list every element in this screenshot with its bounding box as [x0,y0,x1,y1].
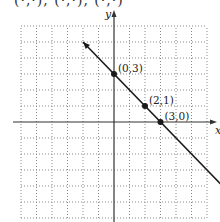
y-axis-arrow-icon [112,10,117,17]
points: (0,3)(2,1)(3,0) [111,62,189,125]
coordinate-plane: xy (0,3)(2,1)(3,0) [0,0,220,222]
line-segment [83,42,220,194]
y-axis-label: y [104,8,112,21]
x-axis-label: x [215,124,220,137]
data-point-label: (2,1) [149,94,174,106]
data-point-label: (0,3) [118,62,143,74]
data-point [158,119,164,125]
data-point [111,71,117,77]
plot-line [83,42,220,194]
data-point [142,103,148,109]
data-point-label: (3,0) [165,110,190,122]
